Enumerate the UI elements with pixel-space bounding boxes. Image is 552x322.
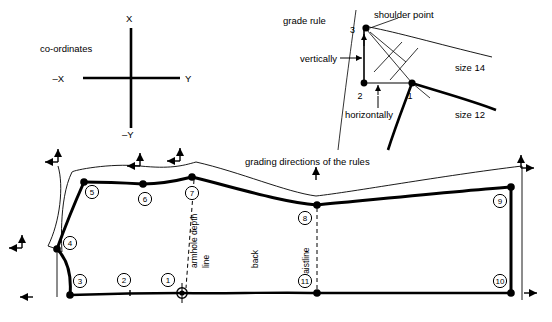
point-label-text-11: 11 <box>301 277 310 286</box>
point-label-text-7: 7 <box>190 189 195 198</box>
point-node-9 <box>507 183 515 191</box>
shoulder-5-6 <box>84 182 143 184</box>
grade-node-1 <box>408 79 415 86</box>
point-label-text-1: 1 <box>166 276 171 285</box>
grade-rule-detail: 3 2 1 grade rule shoulder point vertical… <box>283 9 496 150</box>
axis-y-label: Y <box>185 73 192 84</box>
point-node-5 <box>80 178 88 186</box>
point-node-7 <box>188 173 196 181</box>
arrow-point-4 <box>9 235 22 248</box>
point-label-text-3: 3 <box>78 277 83 286</box>
point-label-5: 5 <box>85 185 98 198</box>
grade-diagonal <box>367 30 412 83</box>
armhole-depth-label-line1: armhole depth <box>189 213 199 268</box>
shoulder-point-label: shoulder point <box>374 9 434 20</box>
hem-11-1 <box>182 293 317 294</box>
point-node-8 <box>313 201 321 209</box>
grade-rule-title: grade rule <box>283 15 326 26</box>
point-label-7: 7 <box>185 186 198 199</box>
point-label-text-8: 8 <box>303 214 308 223</box>
size-14-label: size 14 <box>455 62 485 73</box>
point-node-11 <box>313 289 321 297</box>
arrow-point-6 <box>127 153 140 166</box>
grade-point-3-label: 3 <box>350 25 355 35</box>
size12-curve <box>412 83 496 110</box>
point-label-2: 2 <box>117 273 130 286</box>
armhole-depth-label-line2: line <box>201 254 211 268</box>
construction-line-c <box>390 48 418 80</box>
arrow-point-5 <box>45 149 58 162</box>
point-label-9: 9 <box>493 194 506 207</box>
point-label-text-6: 6 <box>143 195 148 204</box>
point-label-text-4: 4 <box>68 239 73 248</box>
grade-node-3 <box>362 24 369 31</box>
point-node-3 <box>66 291 74 299</box>
axis-neg-x-label: –X <box>52 73 64 84</box>
point-node-6 <box>139 180 147 188</box>
point-node-4 <box>53 245 61 253</box>
grade-node-2 <box>361 80 368 87</box>
point-label-3: 3 <box>73 274 86 287</box>
point-label-text-10: 10 <box>496 277 505 286</box>
arrow-point-9 <box>521 155 534 168</box>
point-label-10: 10 <box>493 274 506 287</box>
upper-edge-8-9 <box>317 187 511 205</box>
point-label-text-2: 2 <box>122 276 127 285</box>
horizontally-label: horizontally <box>345 109 393 120</box>
coordinates-caption: co-ordinates <box>40 43 93 54</box>
point-label-6: 6 <box>138 192 151 205</box>
size14-curve <box>369 27 492 57</box>
grading-directions-note: grading directions of the rules <box>245 156 370 167</box>
hem-1-3 <box>70 293 182 295</box>
grade-point-1-label: 1 <box>407 91 412 101</box>
arrow-point-7 <box>167 148 180 161</box>
pattern-grading-svg: X –Y Y –X co-ordinates <box>0 0 552 322</box>
back-label: back <box>250 249 260 268</box>
axis-x-label: X <box>126 13 133 24</box>
shoulder-6-7 <box>143 177 192 184</box>
point-label-1: 1 <box>161 273 174 286</box>
vertically-label: vertically <box>300 53 337 64</box>
axis-neg-y-label: –Y <box>122 129 134 140</box>
coordinate-axes: X –Y Y –X co-ordinates <box>40 13 192 140</box>
point-label-8: 8 <box>298 211 311 224</box>
grade-point-2-label: 2 <box>357 91 362 101</box>
point-label-text-9: 9 <box>498 197 503 206</box>
armhole-curve-3-4 <box>57 249 70 295</box>
size-12-label: size 12 <box>455 109 485 120</box>
point-label-11: 11 <box>298 274 311 287</box>
grading-arrows-layer <box>9 148 537 297</box>
point-label-text-5: 5 <box>90 188 95 197</box>
diagram-canvas: X –Y Y –X co-ordinates <box>0 0 552 322</box>
point1-core <box>179 290 184 295</box>
point-label-4: 4 <box>63 236 76 249</box>
neckline-7-8 <box>192 177 317 205</box>
point-node-10 <box>507 289 515 297</box>
